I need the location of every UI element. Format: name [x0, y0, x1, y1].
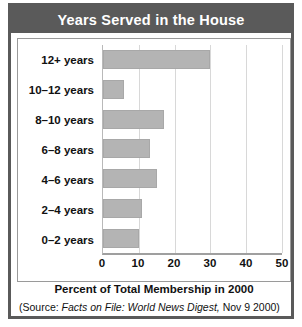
chart-title-bar: Years Served in the House — [11, 6, 291, 33]
x-axis-title: Percent of Total Membership in 2000 — [17, 283, 291, 295]
bar — [103, 229, 139, 248]
source-prefix: (Source: — [19, 301, 62, 313]
x-axis-tick: 10 — [132, 257, 145, 269]
bar-row — [103, 45, 282, 75]
bar-row — [103, 134, 282, 164]
y-axis-label-row: 4–6 years — [18, 165, 100, 195]
y-axis-label: 6–8 years — [42, 144, 94, 156]
x-axis-tick-labels: 01020304050 — [102, 257, 282, 273]
source-note: (Source: Facts on File: World News Diges… — [19, 301, 280, 313]
y-axis-label: 0–2 years — [42, 234, 94, 246]
bar — [103, 50, 210, 69]
bar — [103, 139, 150, 158]
bar-series — [103, 45, 282, 253]
y-axis-label-row: 2–4 years — [18, 195, 100, 225]
bar-row — [103, 164, 282, 194]
y-axis-category-labels: 12+ years10–12 years8–10 years6–8 years4… — [18, 45, 100, 255]
y-axis-label-row: 10–12 years — [18, 75, 100, 105]
bar — [103, 80, 124, 99]
y-axis-label-row: 0–2 years — [18, 225, 100, 255]
y-axis-label: 4–6 years — [42, 174, 94, 186]
source-suffix: Nov 9 2000) — [220, 301, 280, 313]
x-axis-tick: 50 — [276, 257, 289, 269]
x-axis-tick: 20 — [168, 257, 181, 269]
bar — [103, 199, 142, 218]
y-axis-label: 8–10 years — [35, 114, 94, 126]
bar-row — [103, 104, 282, 134]
bar-row — [103, 75, 282, 105]
chart-figure: Years Served in the House 12+ years10–12… — [0, 0, 302, 327]
page-title: Years Served in the House — [57, 12, 244, 28]
bar-row — [103, 194, 282, 224]
bar — [103, 110, 164, 129]
y-axis-label: 10–12 years — [29, 84, 94, 96]
bar-row — [103, 223, 282, 253]
x-axis-tick: 30 — [204, 257, 217, 269]
y-axis-label: 12+ years — [41, 54, 94, 66]
x-axis-tick: 0 — [99, 257, 105, 269]
y-axis-label: 2–4 years — [42, 204, 94, 216]
chart-plot-card: 12+ years10–12 years8–10 years6–8 years4… — [17, 38, 291, 282]
y-axis-label-row: 12+ years — [18, 45, 100, 75]
plot-area — [102, 45, 282, 255]
y-axis-label-row: 6–8 years — [18, 135, 100, 165]
y-axis-label-row: 8–10 years — [18, 105, 100, 135]
gridline — [282, 45, 283, 253]
bar — [103, 169, 157, 188]
source-publication: Facts on File: World News Digest, — [62, 301, 220, 313]
chart-frame: Years Served in the House 12+ years10–12… — [8, 3, 294, 319]
x-axis-tick: 40 — [240, 257, 253, 269]
